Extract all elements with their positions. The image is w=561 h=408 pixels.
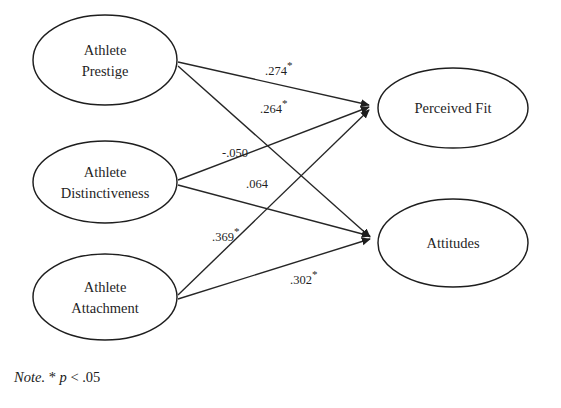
- node-perceived-fit[interactable]: Perceived Fit: [378, 68, 528, 148]
- figure-note: Note. * p < .05: [14, 370, 100, 385]
- coefficient-label-attachment-attitudes: .302*: [290, 268, 317, 287]
- node-label-line2: Distinctiveness: [61, 185, 150, 201]
- node-athlete-prestige[interactable]: Athlete Prestige: [33, 15, 177, 105]
- path-arrows-group: [178, 62, 370, 299]
- node-athlete-attachment[interactable]: Athlete Attachment: [33, 254, 177, 340]
- note-comparison: < .05: [70, 369, 100, 385]
- note-prefix: Note.: [14, 369, 45, 385]
- node-label-line1: Attitudes: [426, 235, 480, 251]
- node-ellipse: [33, 15, 177, 105]
- coefficient-label-attachment-perceived-fit: .369*: [212, 225, 239, 244]
- path-arrow-attachment-to-perceived-fit: [178, 110, 369, 295]
- node-ellipse: [33, 254, 177, 340]
- coefficient-label-distinctiveness-perceived-fit: -.050: [222, 146, 248, 160]
- path-arrow-prestige-to-attitudes: [178, 66, 370, 237]
- node-label-line1: Athlete: [84, 42, 127, 58]
- node-label-line1: Athlete: [84, 279, 127, 295]
- path-arrow-attachment-to-attitudes: [178, 239, 370, 299]
- coefficient-label-distinctiveness-attitudes: .064: [246, 177, 269, 191]
- node-label-line1: Athlete: [84, 164, 127, 180]
- node-label-line2: Attachment: [71, 300, 139, 316]
- coefficient-labels-group: .274* .264* -.050 .064 .369* .302*: [212, 59, 317, 287]
- coefficient-label-prestige-perceived-fit: .274*: [265, 59, 292, 78]
- node-athlete-distinctiveness[interactable]: Athlete Distinctiveness: [33, 141, 177, 223]
- node-label-line2: Prestige: [82, 63, 129, 79]
- node-attitudes[interactable]: Attitudes: [378, 199, 528, 287]
- path-arrow-distinctiveness-to-perceived-fit: [178, 107, 369, 180]
- path-diagram-canvas: Athlete Prestige Athlete Distinctiveness…: [0, 0, 561, 408]
- coefficient-label-prestige-attitudes: .264*: [260, 97, 287, 116]
- node-ellipse: [33, 141, 177, 223]
- note-star: *: [49, 369, 56, 385]
- node-label-line1: Perceived Fit: [415, 100, 492, 116]
- note-stat-symbol: p: [60, 369, 67, 385]
